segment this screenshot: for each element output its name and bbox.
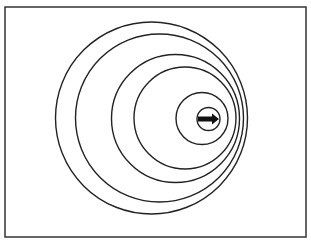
wavefront-circle-4 bbox=[134, 67, 236, 169]
wavefront-circle-2 bbox=[76, 34, 244, 202]
doppler-diagram bbox=[0, 0, 311, 242]
wavefront-circle-1 bbox=[56, 22, 248, 214]
moving-source bbox=[198, 114, 219, 125]
wavefronts bbox=[56, 22, 248, 214]
right-arrow-icon bbox=[198, 114, 219, 125]
